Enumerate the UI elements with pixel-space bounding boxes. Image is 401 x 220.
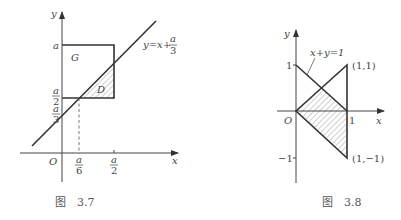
y-tick-a: a — [53, 40, 59, 51]
y-tick-minus-1: −1 — [278, 153, 293, 164]
line-label: x+y=1 — [310, 47, 344, 58]
figures-canvas: y x O a a 2 a 3 a 6 a 2 G D y=x+ a 3 图 3… — [0, 0, 401, 220]
region-d-label: D — [96, 84, 105, 95]
x-axis-label: x — [376, 115, 382, 126]
line-equation-num: a — [170, 33, 176, 44]
y-tick-a3-den: 3 — [53, 114, 59, 125]
label-leader — [307, 58, 315, 75]
y-tick-1: 1 — [286, 60, 292, 71]
x-tick-a2-den: 2 — [111, 165, 117, 176]
line-y-eq-x-plus-a3 — [32, 21, 156, 146]
origin-label: O — [284, 115, 292, 126]
y-axis-label: y — [50, 8, 57, 19]
point-1-minus1-label: (1,−1) — [352, 153, 384, 164]
y-tick-a3-num: a — [53, 103, 59, 114]
y-axis-label: y — [283, 28, 290, 39]
origin-label: O — [49, 156, 57, 167]
shaded-region — [296, 88, 347, 158]
region-g-label: G — [71, 52, 79, 63]
figure-3-7: y x O a a 2 a 3 a 6 a 2 G D y=x+ a 3 图 3… — [20, 8, 178, 209]
figure-3-8: y x O 1 −1 1 x+y=1 (1,1) (1,−1) 图 3.8 — [277, 28, 384, 209]
x-tick-1: 1 — [349, 115, 355, 126]
x-tick-a6-den: 6 — [76, 165, 82, 176]
x-tick-a6-num: a — [76, 154, 82, 165]
caption-3-8: 图 3.8 — [322, 196, 362, 209]
y-tick-a2-num: a — [53, 85, 59, 96]
line-equation-den: 3 — [170, 45, 176, 56]
point-1-1-label: (1,1) — [352, 60, 376, 71]
x-tick-a2-num: a — [111, 154, 117, 165]
caption-3-7: 图 3.7 — [55, 196, 95, 209]
line-equation-lhs: y=x+ — [142, 39, 171, 50]
x-axis-label: x — [172, 155, 178, 166]
